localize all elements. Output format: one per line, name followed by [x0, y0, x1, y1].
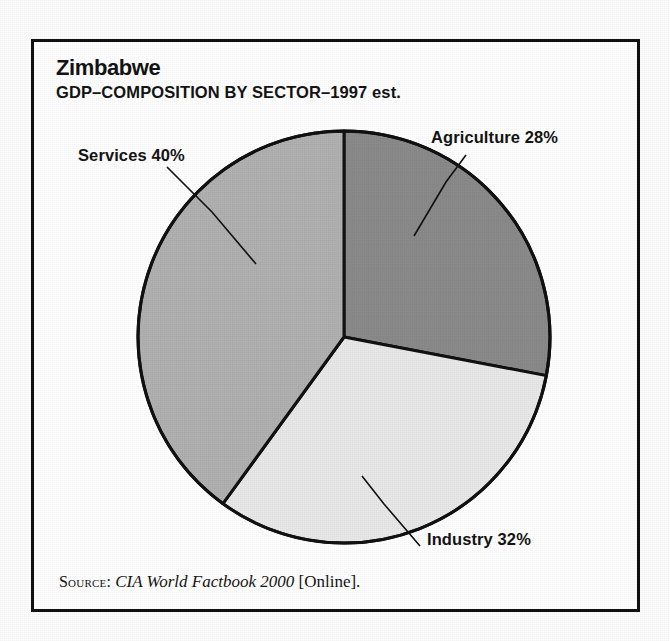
pie-slice-agriculture[interactable]	[344, 131, 550, 376]
pie-slice-services[interactable]	[138, 131, 344, 504]
source-suffix: [Online].	[299, 572, 361, 591]
services-texture	[138, 131, 344, 504]
industry-texture	[223, 337, 546, 543]
source-title: CIA World Factbook 2000	[115, 572, 294, 591]
leader-line-services	[167, 167, 256, 264]
leader-line-industry	[362, 476, 420, 546]
pie-label-industry: Industry 32%	[427, 530, 531, 549]
title-block: Zimbabwe GDP–COMPOSITION BY SECTOR–1997 …	[56, 56, 576, 102]
leader-line-agriculture	[414, 155, 466, 236]
page-title: Zimbabwe	[56, 56, 576, 79]
pie-slice-industry[interactable]	[223, 337, 546, 543]
chart-frame: Zimbabwe GDP–COMPOSITION BY SECTOR–1997 …	[31, 39, 640, 612]
source-label: Source:	[59, 573, 111, 590]
chart-subtitle: GDP–COMPOSITION BY SECTOR–1997 est.	[56, 83, 576, 102]
source-line: Source: CIA World Factbook 2000 [Online]…	[59, 572, 360, 592]
pie-label-services: Services 40%	[78, 146, 185, 165]
pie-outline	[138, 131, 550, 543]
figure-root: Zimbabwe GDP–COMPOSITION BY SECTOR–1997 …	[0, 0, 670, 641]
pie-label-agriculture: Agriculture 28%	[431, 128, 558, 147]
agriculture-texture	[344, 131, 550, 376]
